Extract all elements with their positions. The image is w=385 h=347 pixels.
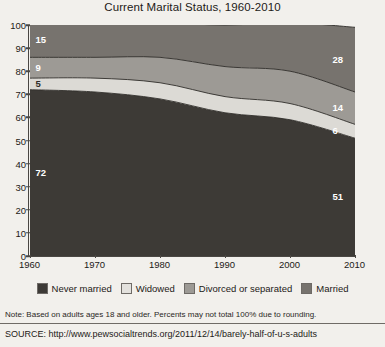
footer-divider (0, 323, 385, 324)
value-label: 9 (36, 62, 41, 73)
value-label: 72 (36, 167, 47, 178)
x-tick-label: 1970 (84, 259, 105, 270)
value-label: 15 (36, 34, 47, 45)
x-tick-mark (225, 255, 227, 258)
legend-label: Married (316, 283, 348, 294)
x-tick-label: 2010 (344, 259, 365, 270)
x-tick-mark (160, 255, 162, 258)
legend-item-divorced-or-separated[interactable]: Divorced or separated (184, 283, 292, 294)
chart-source: SOURCE: http://www.pewsocialtrends.org/2… (5, 329, 383, 339)
value-label: 51 (333, 191, 344, 202)
value-label: 5 (36, 78, 41, 89)
x-axis: 196019701980199020002010 (0, 258, 385, 272)
chart-note: Note: Based on adults ages 18 and older.… (5, 310, 380, 319)
x-tick-mark (30, 255, 32, 258)
x-tick-label: 1980 (149, 259, 170, 270)
legend-item-married[interactable]: Married (301, 283, 348, 294)
legend-label: Widowed (136, 283, 175, 294)
value-label: 14 (333, 102, 344, 113)
legend-swatch-icon (121, 283, 132, 294)
chart-title: Current Marital Status, 1960-2010 (0, 1, 385, 13)
legend-item-widowed[interactable]: Widowed (121, 283, 175, 294)
plot-frame (28, 25, 355, 257)
x-tick-label: 1990 (214, 259, 235, 270)
chart-figure: Current Marital Status, 1960-2010 010203… (0, 0, 385, 347)
value-label: 28 (333, 54, 344, 65)
legend-item-never-married[interactable]: Never married (37, 283, 112, 294)
legend-swatch-icon (37, 283, 48, 294)
legend-label: Divorced or separated (199, 283, 292, 294)
legend-swatch-icon (301, 283, 312, 294)
legend-label: Never married (52, 283, 112, 294)
legend-swatch-icon (184, 283, 195, 294)
x-tick-mark (290, 255, 292, 258)
x-tick-label: 2000 (279, 259, 300, 270)
x-tick-label: 1960 (19, 259, 40, 270)
chart-legend: Never marriedWidowedDivorced or separate… (0, 283, 385, 294)
value-label: 6 (333, 125, 338, 136)
x-tick-mark (95, 255, 97, 258)
x-tick-mark (355, 255, 357, 258)
